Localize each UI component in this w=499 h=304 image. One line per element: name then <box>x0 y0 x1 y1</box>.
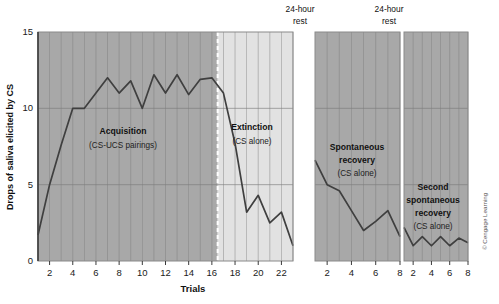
second-recovery-title-3: recovery <box>415 208 451 218</box>
xtick-label: 8 <box>116 267 121 278</box>
rest-label-2-line2: rest <box>382 16 397 26</box>
rest-label-1-line1: 24-hour <box>286 4 315 14</box>
xtick-label: 2 <box>47 267 52 278</box>
spontaneous-recovery-title-2: recovery <box>339 155 375 165</box>
spontaneous-recovery-title-1: Spontaneous <box>330 142 385 152</box>
xtick-label: 18 <box>230 267 241 278</box>
figure-container: 246810121416182022 Acquisition (CS-UCS p… <box>0 0 499 304</box>
acquisition-title: Acquisition <box>100 126 147 136</box>
xtick-label: 6 <box>373 267 378 278</box>
xtick-label: 22 <box>276 267 287 278</box>
xtick-label: 8 <box>397 267 402 278</box>
copyright-credit: © Cengage Learning <box>481 192 488 250</box>
xtick-label: 8 <box>465 267 470 278</box>
ytick-label-15: 15 <box>22 26 33 37</box>
xtick-label: 2 <box>410 267 415 278</box>
xtick-label: 12 <box>160 267 171 278</box>
second-recovery-subtitle: (CS alone) <box>413 222 452 231</box>
second-recovery-title-1: Second <box>417 182 448 192</box>
ytick-label-5: 5 <box>28 179 33 190</box>
xtick-label: 4 <box>349 267 354 278</box>
x-axis-title: Trials <box>181 283 206 294</box>
rest-label-2-line1: 24-hour <box>375 4 404 14</box>
ytick-label-0: 0 <box>28 255 33 266</box>
xtick-label: 4 <box>70 267 75 278</box>
rest-label-1-line2: rest <box>293 16 308 26</box>
extinction-title: Extinction <box>231 122 273 132</box>
second-recovery-title-2: spontaneous <box>406 195 460 205</box>
acquisition-subtitle: (CS-UCS pairings) <box>89 141 157 150</box>
xtick-label: 6 <box>93 267 98 278</box>
xtick-label: 16 <box>207 267 218 278</box>
y-axis-title: Drops of saliva elicited by CS <box>5 84 15 210</box>
xtick-label: 6 <box>447 267 452 278</box>
extinction-subtitle: (CS alone) <box>232 137 271 146</box>
xtick-label: 10 <box>137 267 148 278</box>
panel-acquisition-extinction: 246810121416182022 Acquisition (CS-UCS p… <box>38 32 293 278</box>
xtick-label: 14 <box>183 267 194 278</box>
saliva-conditioning-chart: 246810121416182022 Acquisition (CS-UCS p… <box>0 0 499 304</box>
xtick-label: 2 <box>324 267 329 278</box>
xtick-label: 4 <box>429 267 434 278</box>
xtick-label: 20 <box>253 267 264 278</box>
ytick-label-10: 10 <box>22 102 33 113</box>
spontaneous-recovery-subtitle: (CS alone) <box>337 169 376 178</box>
